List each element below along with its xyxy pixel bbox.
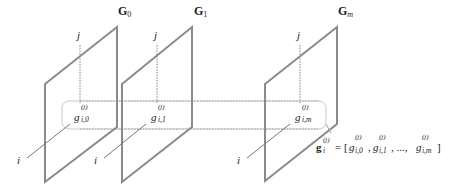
- i-guide-g0: [27, 124, 70, 158]
- diagram-canvas: [0, 0, 451, 189]
- i-label-g0: i: [17, 155, 20, 166]
- panel-title-gm: Gm: [338, 5, 353, 19]
- panel-title-g0: G0: [118, 5, 131, 19]
- j-label-gm: j: [297, 30, 300, 41]
- panel-title-g1: G1: [194, 5, 207, 19]
- i-label-gm: i: [237, 155, 240, 166]
- j-label-g1: j: [154, 30, 157, 41]
- i-label-g1: i: [94, 155, 97, 166]
- entry-g-i1: g (j) i,1: [151, 104, 181, 126]
- vector-formula: g (j) i = [ g (j) i,0 , g (j) i,1 , ...,…: [316, 134, 451, 158]
- entry-g-im: g (j) i,m: [295, 104, 325, 126]
- entry-g-i0: g (j) i,0: [74, 104, 104, 126]
- j-label-g0: j: [77, 30, 80, 41]
